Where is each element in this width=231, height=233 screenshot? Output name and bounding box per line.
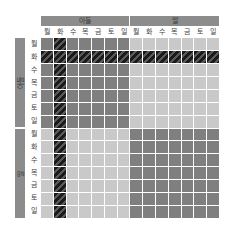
grid-cell [143, 180, 155, 192]
row-label: 화 [27, 51, 40, 64]
grid-cell [41, 77, 53, 89]
grid-cell [79, 154, 91, 166]
grid-cell [118, 129, 130, 141]
grid-cell [207, 64, 219, 76]
grid-cell [207, 77, 219, 89]
grid-cell [156, 180, 168, 192]
grid-cell [118, 77, 130, 89]
grid-cell [182, 129, 194, 141]
grid-cell [67, 38, 79, 50]
grid-cell [207, 167, 219, 179]
grid-cell [143, 141, 155, 153]
grid-cell [130, 141, 142, 153]
row-label: 수 [27, 154, 40, 167]
grid-cell [156, 154, 168, 166]
grid-cell [118, 154, 130, 166]
row-label: 일 [27, 115, 40, 128]
grid-cell [67, 51, 79, 63]
grid-cell [169, 141, 181, 153]
grid-cell [207, 154, 219, 166]
grid-cell [169, 193, 181, 205]
grid-cell [67, 141, 79, 153]
grid-cell [182, 193, 194, 205]
row-group-son: 아들 [15, 38, 25, 127]
grid-cell [130, 51, 142, 63]
grid-cell [67, 206, 79, 218]
grid-cell [41, 51, 53, 63]
grid-cell [92, 167, 104, 179]
grid-cell [207, 180, 219, 192]
grid-cell [130, 129, 142, 141]
grid-cell [156, 129, 168, 141]
column-label: 금 [181, 27, 194, 37]
grid-cell [194, 116, 206, 128]
grid-cell [156, 193, 168, 205]
grid-cell [67, 129, 79, 141]
column-label: 토 [105, 27, 118, 37]
grid-cell [182, 77, 194, 89]
row-label: 토 [27, 102, 40, 115]
grid-cell [92, 77, 104, 89]
grid-cell [207, 206, 219, 218]
grid-cell [194, 103, 206, 115]
grid-cell [182, 206, 194, 218]
grid-cell [41, 64, 53, 76]
grid-cell [143, 154, 155, 166]
grid-cell [194, 90, 206, 102]
grid-cell [169, 103, 181, 115]
grid-cell [79, 167, 91, 179]
grid-cell [130, 167, 142, 179]
grid-cell [207, 51, 219, 63]
grid-cell [118, 116, 130, 128]
grid-cell [79, 180, 91, 192]
grid-cell [169, 116, 181, 128]
grid-cell [79, 129, 91, 141]
grid-cell [79, 90, 91, 102]
column-group-son: 아들 [41, 16, 129, 26]
grid-cell [143, 167, 155, 179]
grid-cell [54, 193, 66, 205]
column-label: 화 [143, 27, 156, 37]
row-label: 목 [27, 77, 40, 90]
grid-cell [92, 103, 104, 115]
grid-cell [156, 64, 168, 76]
grid-cell [130, 116, 142, 128]
grid-cell [156, 77, 168, 89]
grid-cell [156, 206, 168, 218]
column-label: 수 [155, 27, 168, 37]
grid-cell [67, 154, 79, 166]
grid-cell [105, 103, 117, 115]
grid-cell [130, 206, 142, 218]
grid-cell [41, 193, 53, 205]
grid-cell [143, 206, 155, 218]
column-label: 금 [92, 27, 105, 37]
grid-cell [207, 90, 219, 102]
grid-cell [169, 206, 181, 218]
grid-cell [143, 103, 155, 115]
grid-cell [118, 103, 130, 115]
row-label: 월 [27, 38, 40, 51]
grid-cell [118, 90, 130, 102]
grid-cell [130, 90, 142, 102]
grid-cell [92, 206, 104, 218]
grid-cell [169, 90, 181, 102]
row-label: 월 [27, 128, 40, 141]
grid-cell [105, 90, 117, 102]
grid-cell [194, 206, 206, 218]
column-group-daughter: 딸 [130, 16, 219, 26]
grid-cell [79, 38, 91, 50]
grid-cell [130, 154, 142, 166]
grid-cell [54, 154, 66, 166]
grid-cell [67, 77, 79, 89]
row-group-son-label: 아들 [15, 77, 25, 89]
grid-cell [54, 103, 66, 115]
row-group-daughter-label: 딸 [15, 171, 25, 177]
grid-cell [194, 167, 206, 179]
grid-cell [143, 193, 155, 205]
grid-cell [54, 141, 66, 153]
grid-cell [143, 90, 155, 102]
grid-cell [118, 193, 130, 205]
grid-cell [143, 129, 155, 141]
grid-cell [182, 116, 194, 128]
grid-cell [118, 180, 130, 192]
